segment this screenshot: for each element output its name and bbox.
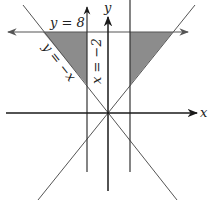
x-axis-label: x xyxy=(200,105,208,120)
y-axis-label: y xyxy=(103,0,112,15)
label-x-neg2: x = −2 xyxy=(89,38,104,84)
label-y8: y = 8 xyxy=(49,15,85,30)
graph-diagram: x y y = 8 y = −x x = −2 xyxy=(0,0,210,207)
